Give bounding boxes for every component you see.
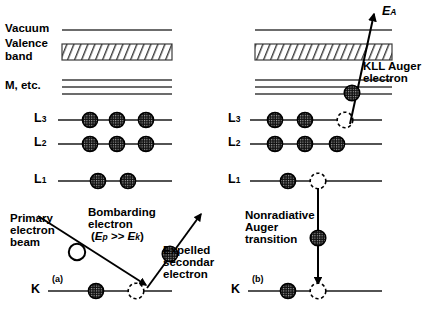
label-expelled-secondary-electron: Expelled secondar electron bbox=[163, 244, 215, 281]
label-vacuum: Vacuum bbox=[5, 23, 49, 35]
electron-filled bbox=[280, 283, 295, 298]
panel-a-electrons-l2 bbox=[82, 136, 153, 151]
label-bombarding-electron: Bombarding electron bbox=[88, 206, 156, 230]
electron-filled bbox=[138, 136, 153, 151]
label-l1-a-sub: 1 bbox=[42, 175, 47, 185]
electron-filled bbox=[267, 112, 282, 127]
label-l1-b: L1 bbox=[228, 173, 240, 186]
panel-b-electrons-l2 bbox=[267, 136, 344, 151]
panel-a-id: (a) bbox=[52, 275, 63, 284]
valence-band-b bbox=[255, 44, 392, 60]
label-m-shell: M, etc. bbox=[5, 80, 41, 92]
label-primary-electron-beam: Primary electron beam bbox=[10, 212, 55, 249]
label-l2-b-sub: 2 bbox=[236, 138, 241, 148]
electron-filled bbox=[120, 173, 135, 188]
electron-filled bbox=[267, 136, 282, 151]
electron-filled bbox=[109, 136, 124, 151]
electron-filled bbox=[297, 112, 312, 127]
label-l2-a-text: L bbox=[34, 135, 42, 149]
label-l2-b-text: L bbox=[228, 135, 236, 149]
panel-b-id: (b) bbox=[252, 275, 264, 284]
label-l1-b-sub: 1 bbox=[236, 175, 241, 185]
label-l1-b-text: L bbox=[228, 172, 236, 186]
panel-b-electrons-l3 bbox=[267, 112, 352, 128]
label-ea: EA bbox=[382, 5, 396, 18]
label-l2-b: L2 bbox=[228, 136, 240, 149]
label-l3-b-text: L bbox=[228, 111, 236, 125]
electron-filled bbox=[109, 112, 124, 127]
electron-filled bbox=[88, 283, 103, 298]
label-valence-line1: Valence bbox=[5, 38, 48, 50]
electron-filled-auger bbox=[344, 85, 360, 101]
gg-operator: >> bbox=[108, 230, 128, 242]
electron-filled bbox=[329, 136, 344, 151]
label-kll-auger-electron: KLL Auger electron bbox=[363, 60, 421, 84]
electron-filled bbox=[297, 136, 312, 151]
hole-dashed bbox=[310, 283, 326, 299]
label-l1-a: L1 bbox=[34, 173, 46, 186]
ep-symbol: E bbox=[95, 230, 103, 242]
label-l3-b-sub: 3 bbox=[236, 114, 241, 124]
electron-open-primary bbox=[69, 244, 85, 260]
valence-band-a bbox=[62, 44, 172, 60]
label-l2-a-sub: 2 bbox=[42, 138, 47, 148]
label-k-b: K bbox=[231, 283, 240, 296]
label-l3-a: L3 bbox=[34, 112, 46, 125]
electron-filled bbox=[82, 136, 97, 151]
electron-filled bbox=[82, 112, 97, 127]
label-l3-a-sub: 3 bbox=[42, 114, 47, 124]
label-l2-a: L2 bbox=[34, 136, 46, 149]
panel-a-levels bbox=[48, 30, 172, 291]
hole-dashed bbox=[310, 173, 326, 189]
electron-filled bbox=[280, 173, 295, 188]
label-valence-line2: band bbox=[5, 51, 32, 63]
panel-a-electrons-l3 bbox=[82, 112, 153, 127]
label-l3-a-text: L bbox=[34, 111, 42, 125]
electron-filled bbox=[138, 112, 153, 127]
label-nonradiative-auger-transition: Nonradiative Auger transition bbox=[245, 209, 315, 246]
hole-dashed bbox=[128, 283, 144, 299]
label-l1-a-text: L bbox=[34, 172, 42, 186]
figure-canvas: Vacuum Valence band M, etc. L3 L2 L1 K (… bbox=[0, 0, 429, 310]
paren-close: ) bbox=[140, 230, 144, 242]
label-ea-sub: A bbox=[390, 7, 396, 17]
label-l3-b: L3 bbox=[228, 112, 240, 125]
label-energy-relation: (Ep >> Ek) bbox=[91, 230, 144, 242]
label-k-a: K bbox=[31, 283, 40, 296]
electron-filled bbox=[90, 173, 105, 188]
